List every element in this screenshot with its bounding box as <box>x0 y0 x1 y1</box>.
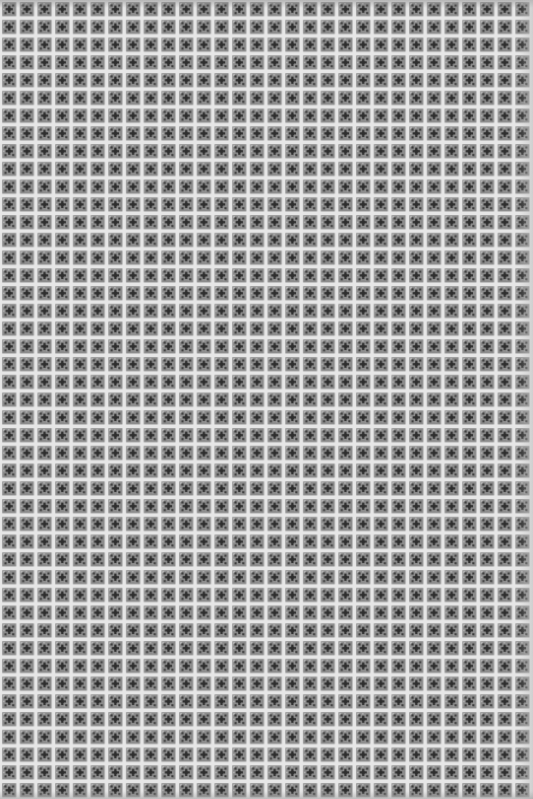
top-edge-shading <box>0 0 533 8</box>
tile-grid <box>0 0 533 799</box>
patterned-texture-photo: Grayscale close-up photograph of a repea… <box>0 0 533 799</box>
bottom-edge-shading <box>0 791 533 799</box>
right-edge-shading <box>519 0 533 799</box>
tile-grid-fill <box>0 0 533 799</box>
